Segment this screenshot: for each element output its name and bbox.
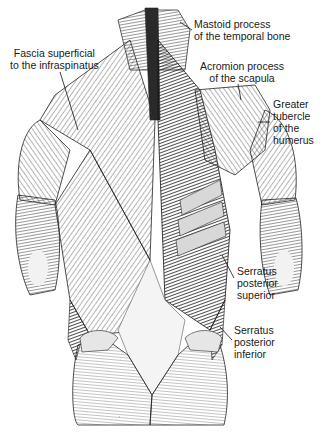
label-serratus-posterior-inferior: Serratus posterior inferior <box>234 324 275 360</box>
label-greater-tubercle: Greater tubercle of the humerus <box>273 98 314 146</box>
label-serratus-posterior-superior: Serratus posterior superior <box>237 265 278 301</box>
label-acromion-process: Acromion process of the scapula <box>200 60 284 84</box>
label-fascia-infraspinatus: Fascia superficial to the infraspinatus <box>10 47 99 71</box>
label-mastoid-process: Mastoid process of the temporal bone <box>194 18 290 42</box>
